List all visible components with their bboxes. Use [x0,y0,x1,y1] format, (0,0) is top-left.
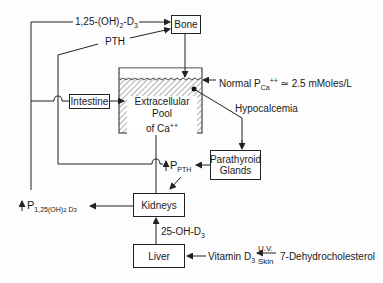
vitamin-d-active-to-bone-label: 1,25-(OH)2-D3 [75,16,138,31]
intestine-node: Intestine [69,94,110,109]
kidneys-node: Kidneys [133,193,185,217]
pool-label-line2: of Ca++ [127,120,197,135]
liver-node: Liver [133,244,185,268]
hypocalcemia-label: Hypocalcemia [235,103,298,114]
uv-label: U.V. [258,243,273,254]
7-dehydrocholesterol-label: 7-Dehydrocholesterol [280,251,375,262]
intestine-label: Intestine [71,96,109,107]
normal-calcium-level-label: Normal PCa++ ≃ 2.5 mMoles/L [219,75,352,93]
parathyroid-label-line1: Parathyroid [210,154,261,165]
vitamin-d3-label: Vitamin D3 [208,251,255,266]
liver-label: Liver [148,251,170,262]
bone-node: Bone [171,15,201,34]
bone-label: Bone [174,19,197,30]
kidneys-label: Kidneys [141,200,177,211]
extracellular-pool-label: Extracellular Pool of Ca++ [127,96,197,135]
calcitriol-level-increase-label: P1,25(OH)2 D3 [27,200,77,216]
calcium-homeostasis-diagram: Bone Intestine Extracellular Pool of Ca+… [0,0,383,283]
pool-label-line1: Extracellular Pool [127,96,197,120]
pth-to-bone-label: PTH [105,36,125,47]
parathyroid-label-line2: Glands [220,165,252,176]
skin-label: Skin [258,256,274,267]
pth-level-increase-label: PPTH [170,160,191,175]
25-oh-d3-label: 25-OH-D3 [161,226,205,241]
parathyroid-glands-node: Parathyroid Glands [210,150,261,180]
